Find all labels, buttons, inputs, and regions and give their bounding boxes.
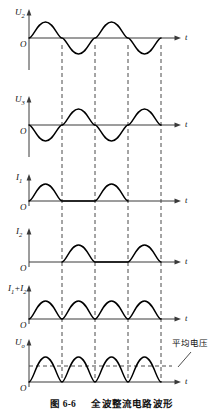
u3-t-axis-arrow <box>175 123 182 128</box>
panel-u3 <box>27 96 181 157</box>
i1-y-axis-arrow <box>27 174 32 181</box>
i2-t-axis-arrow <box>175 260 182 265</box>
figure-caption-number: 图 6-6 <box>50 399 76 409</box>
origin-label-i2: O <box>20 264 27 273</box>
i1i2-waveform <box>29 301 161 319</box>
origin-label-u3: O <box>20 127 27 136</box>
figure-caption-title: 全波整流电路波形 <box>91 398 173 409</box>
i2-y-axis-arrow <box>27 228 32 235</box>
average-voltage-annotation: 平均电压 <box>172 339 208 348</box>
signal-label-u3: U3 <box>15 95 25 106</box>
panel-i1-plus-i2 <box>27 285 181 324</box>
u3-y-axis-arrow <box>27 96 32 103</box>
t-axis-label-u3: t <box>185 120 187 129</box>
u2-y-axis-arrow <box>27 9 32 16</box>
origin-label-i1i2: O <box>20 321 27 330</box>
origin-label-uo: O <box>20 384 27 393</box>
panel-uo <box>27 339 191 387</box>
origin-label-i1: O <box>20 203 27 212</box>
signal-label-uo: Uo <box>15 338 25 349</box>
t-axis-label-i1i2: t <box>185 314 187 323</box>
t-axis-label-uo: t <box>185 377 187 386</box>
t-axis-label-i2: t <box>185 257 187 266</box>
t-axis-label-u2: t <box>185 33 187 42</box>
origin-label-u2: O <box>20 40 27 49</box>
panel-i2 <box>27 228 181 267</box>
signal-label-u2: U2 <box>15 8 25 19</box>
waveform-diagram <box>0 0 223 417</box>
figure-caption: 图 6-6 全波整流电路波形 <box>0 396 223 410</box>
uo-y-axis-arrow <box>27 339 32 346</box>
t-axis-label-i1: t <box>185 196 187 205</box>
signal-label-i1-plus-i2: I1+I2 <box>8 284 27 295</box>
signal-label-i1: I1 <box>16 173 22 184</box>
i2-waveform <box>62 245 161 262</box>
i1-waveform <box>29 184 128 201</box>
i1i2-y-axis-arrow <box>27 285 32 292</box>
figure-container: U2 O t U3 O t I1 O t I2 O t I1+I2 O t Uo… <box>0 0 223 417</box>
uo-t-axis-arrow <box>175 380 182 385</box>
u2-t-axis-arrow <box>175 36 182 41</box>
timing-gridlines <box>62 45 161 382</box>
i1i2-t-axis-arrow <box>175 317 182 322</box>
signal-label-i2: I2 <box>16 227 22 238</box>
panel-u2 <box>27 9 181 70</box>
annotation-leader-line <box>178 352 191 367</box>
panel-i1 <box>27 174 181 206</box>
i1-t-axis-arrow <box>175 199 182 204</box>
